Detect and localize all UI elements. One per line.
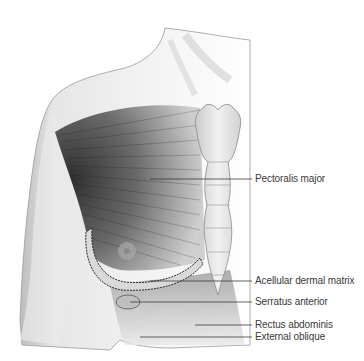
label-pectoralis-major: Pectoralis major <box>255 173 325 185</box>
label-acellular-dermal-matrix: Acellular dermal matrix <box>255 275 354 287</box>
label-external-oblique: External oblique <box>255 331 325 343</box>
label-rectus-abdominis: Rectus abdominis <box>255 319 333 331</box>
label-serratus-anterior: Serratus anterior <box>255 296 328 308</box>
